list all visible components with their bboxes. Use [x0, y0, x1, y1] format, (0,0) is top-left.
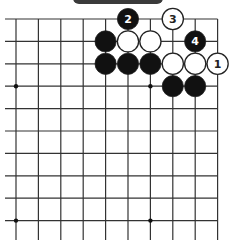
white-stone-1: 1 — [207, 53, 228, 74]
stone-circle — [95, 31, 116, 52]
move-number-label: 2 — [124, 13, 132, 26]
star-point — [148, 84, 152, 88]
stone-circle — [185, 76, 206, 97]
stone-circle — [162, 53, 183, 74]
go-board: 2341 — [0, 0, 231, 244]
stones: 2341 — [95, 8, 228, 96]
black-stone-4: 4 — [185, 31, 206, 52]
stone-circle — [185, 53, 206, 74]
stone-circle — [117, 53, 138, 74]
stone-circle — [117, 31, 138, 52]
black-stone — [95, 53, 116, 74]
black-stone — [117, 53, 138, 74]
star-point — [148, 218, 152, 222]
move-number-label: 4 — [191, 35, 199, 48]
white-stone — [162, 53, 183, 74]
move-number-label: 1 — [214, 58, 222, 71]
stone-circle — [95, 53, 116, 74]
white-stone — [185, 53, 206, 74]
black-stone — [140, 53, 161, 74]
move-number-label: 3 — [169, 13, 177, 26]
white-stone — [140, 31, 161, 52]
grid-lines — [5, 19, 218, 240]
stone-circle — [140, 31, 161, 52]
black-stone — [162, 76, 183, 97]
black-stone — [185, 76, 206, 97]
white-stone — [117, 31, 138, 52]
star-point — [14, 218, 18, 222]
black-stone — [95, 31, 116, 52]
stone-circle — [140, 53, 161, 74]
star-point — [14, 84, 18, 88]
black-stone-2: 2 — [117, 8, 138, 29]
white-stone-3: 3 — [162, 8, 183, 29]
stone-circle — [162, 76, 183, 97]
